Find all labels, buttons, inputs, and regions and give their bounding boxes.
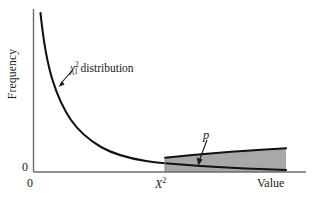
y-axis-zero-tick-label: 0 <box>22 160 28 175</box>
plot-canvas <box>0 0 313 202</box>
curve-annotation-label: χ21distribution <box>70 62 134 74</box>
y-axis-label: Frequency <box>6 38 18 110</box>
p-value-label: p <box>203 128 209 143</box>
x-squared-exponent: 2 <box>162 176 166 185</box>
x-axis-zero-tick-label: 0 <box>27 176 33 191</box>
distribution-curve <box>41 13 287 170</box>
distribution-word: distribution <box>81 62 134 74</box>
x-axis-label: Value <box>257 176 284 191</box>
curve-label-arrowhead <box>59 81 65 87</box>
chi-subscript: 1 <box>74 67 78 76</box>
chi-square-distribution-figure: Frequency 0 0 X2 Value χ21distribution p <box>0 0 313 202</box>
x-squared-tick-label: X2 <box>155 176 166 192</box>
